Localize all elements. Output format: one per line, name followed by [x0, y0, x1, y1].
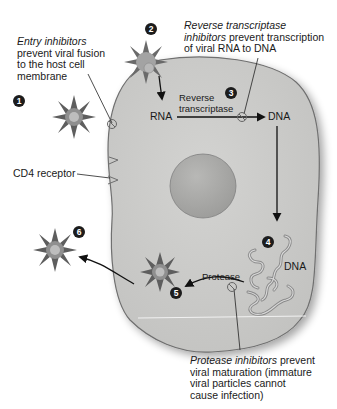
protease-inhibitors-title: Protease inhibitors [190, 354, 277, 366]
label-dna-top: DNA [268, 111, 290, 123]
entry-inhibitors-line4: membrane [17, 71, 105, 83]
protease-inhibitors-line3: viral particles cannot [190, 378, 315, 390]
label-reverse-transcriptase-line2: transcriptase [179, 104, 233, 115]
label-dna-bottom: DNA [284, 261, 306, 273]
rt-inhibitors-title-line1: Reverse transcriptase [184, 19, 286, 31]
rt-inhibitors-title-line2: inhibitors [184, 31, 226, 43]
step-marker-6: 6 [73, 226, 85, 238]
step-marker-2: 2 [145, 23, 157, 35]
label-cd4-receptor: CD4 receptor [13, 168, 75, 180]
protease-inhibitors-line4: cause infection) [190, 390, 315, 402]
annotation-rt-inhibitors: Reverse transcriptase inhibitors prevent… [184, 20, 324, 55]
annotation-protease-inhibitors: Protease inhibitors prevent viral matura… [190, 355, 315, 401]
annotation-entry-inhibitors: Entry inhibitors prevent viral fusion to… [17, 36, 105, 82]
label-reverse-transcriptase-line1: Reverse [179, 93, 233, 104]
label-protease: Protease [202, 272, 240, 283]
virus-particle-1 [52, 95, 96, 139]
protease-inhibitors-desc-line1: prevent [277, 354, 315, 366]
entry-inhibitors-title: Entry inhibitors [17, 35, 86, 47]
step-marker-5: 5 [170, 287, 182, 299]
rt-inhibitors-line3: of viral RNA to DNA [184, 43, 324, 55]
virus-particle-2 [124, 40, 168, 84]
entry-inhibitors-line3: to the host cell [17, 59, 105, 71]
rt-inhibitors-desc-line2: prevent transcription [226, 31, 324, 43]
hiv-lifecycle-diagram: 1 2 3 4 5 6 RNA Reverse transcriptase DN… [0, 0, 337, 409]
virus-particle-6 [33, 228, 77, 272]
label-reverse-transcriptase: Reverse transcriptase [179, 93, 233, 114]
label-rna: RNA [150, 111, 172, 123]
step-marker-4: 4 [262, 236, 274, 248]
step-marker-1: 1 [13, 95, 25, 107]
virus-particle-5 [140, 252, 180, 292]
nucleus [170, 154, 236, 218]
